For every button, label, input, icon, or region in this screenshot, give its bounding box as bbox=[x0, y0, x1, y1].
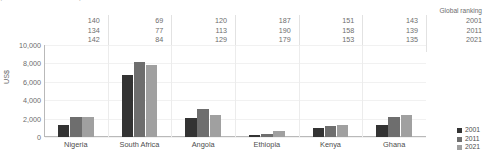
global-ranking-value: 113 bbox=[171, 26, 227, 36]
y-axis-tick-label: 4,000 bbox=[5, 96, 41, 105]
legend-swatch bbox=[457, 137, 462, 142]
global-ranking-block: Global ranking 1401341426977841201131291… bbox=[0, 7, 486, 45]
y-axis-tick-label: 0 bbox=[5, 133, 41, 142]
bar bbox=[261, 134, 273, 137]
global-ranking-value: 129 bbox=[171, 35, 227, 45]
global-ranking-value: 135 bbox=[362, 35, 418, 45]
y-axis-tick-label: 8,000 bbox=[5, 59, 41, 68]
gridline bbox=[45, 137, 426, 138]
bar bbox=[273, 131, 285, 137]
group-divider bbox=[362, 45, 363, 137]
x-axis-label: Ethiopia bbox=[235, 140, 299, 149]
x-axis-label: South Africa bbox=[108, 140, 172, 149]
bar bbox=[58, 125, 70, 137]
caption-strip: (Trade in millions of US dollars) bbox=[0, 0, 486, 7]
global-ranking-value: 187 bbox=[235, 16, 291, 26]
legend-item[interactable]: 2001 bbox=[457, 126, 480, 135]
y-axis-tick-label: 10,000 bbox=[5, 41, 41, 50]
legend-label: 2001 bbox=[465, 126, 480, 135]
plot-area bbox=[44, 45, 426, 137]
bar bbox=[82, 117, 94, 137]
global-ranking-value: 77 bbox=[108, 26, 164, 36]
legend-label: 2011 bbox=[465, 135, 480, 144]
x-axis-label: Kenya bbox=[299, 140, 363, 149]
legend-item[interactable]: 2011 bbox=[457, 135, 480, 144]
bar bbox=[249, 135, 261, 137]
global-ranking-column: 143139135 bbox=[362, 16, 418, 45]
bar bbox=[388, 117, 400, 137]
x-axis-labels: NigeriaSouth AfricaAngolaEthiopiaKenyaGh… bbox=[44, 140, 426, 152]
global-ranking-value: 179 bbox=[235, 35, 291, 45]
ranking-divider bbox=[426, 15, 427, 52]
global-ranking-value: 153 bbox=[299, 35, 355, 45]
bar bbox=[146, 65, 158, 137]
bar bbox=[70, 117, 82, 137]
global-ranking-value: 142 bbox=[44, 35, 100, 45]
global-ranking-value: 140 bbox=[44, 16, 100, 26]
bar bbox=[376, 125, 388, 137]
global-ranking-value: 120 bbox=[171, 16, 227, 26]
global-ranking-column: 187190179 bbox=[235, 16, 291, 45]
bar bbox=[197, 109, 209, 137]
legend-label: 2021 bbox=[465, 143, 480, 152]
global-ranking-value: 69 bbox=[108, 16, 164, 26]
bar bbox=[401, 115, 413, 137]
global-ranking-value: 143 bbox=[362, 16, 418, 26]
global-ranking-value: 151 bbox=[299, 16, 355, 26]
legend-item[interactable]: 2021 bbox=[457, 143, 480, 152]
global-ranking-value: 139 bbox=[362, 26, 418, 36]
global-ranking-title: Global ranking bbox=[439, 7, 482, 14]
group-divider bbox=[235, 45, 236, 137]
global-ranking-year: 2021 bbox=[466, 35, 482, 45]
global-ranking-year: 2011 bbox=[466, 26, 482, 36]
x-axis-label: Angola bbox=[171, 140, 235, 149]
global-ranking-value: 190 bbox=[235, 26, 291, 36]
bar bbox=[134, 62, 146, 137]
global-ranking-value: 134 bbox=[44, 26, 100, 36]
global-ranking-year: 2001 bbox=[466, 16, 482, 26]
x-axis-label: Nigeria bbox=[44, 140, 108, 149]
global-ranking-column: 151158153 bbox=[299, 16, 355, 45]
global-ranking-column: 140134142 bbox=[44, 16, 100, 45]
bar bbox=[337, 125, 349, 137]
group-divider bbox=[171, 45, 172, 137]
legend: 200120112021 bbox=[457, 126, 480, 152]
bar bbox=[313, 128, 325, 137]
bar bbox=[122, 75, 134, 137]
y-axis-ticks: 10,0008,0006,0004,0002,0000 bbox=[0, 45, 41, 137]
x-axis-label: Ghana bbox=[362, 140, 426, 149]
global-ranking-value: 158 bbox=[299, 26, 355, 36]
bar bbox=[325, 126, 337, 138]
y-axis-title: US$ bbox=[2, 70, 11, 84]
bar bbox=[210, 115, 222, 137]
global-ranking-column: 120113129 bbox=[171, 16, 227, 45]
group-divider bbox=[108, 45, 109, 137]
bar bbox=[185, 118, 197, 137]
y-axis-tick-label: 2,000 bbox=[5, 115, 41, 124]
global-ranking-column: 697784 bbox=[108, 16, 164, 45]
global-ranking-year-column: 200120112021 bbox=[466, 16, 482, 45]
global-ranking-value: 84 bbox=[108, 35, 164, 45]
group-divider bbox=[299, 45, 300, 137]
legend-swatch bbox=[457, 128, 462, 133]
legend-swatch bbox=[457, 145, 462, 150]
caption-text: (Trade in millions of US dollars) bbox=[0, 0, 81, 1]
